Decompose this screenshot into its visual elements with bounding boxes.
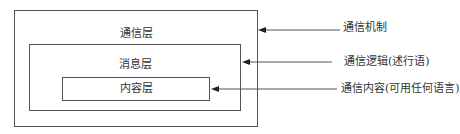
arrow-communication bbox=[258, 27, 340, 33]
annotation-communication-content: 通信内容(可用任何语言) bbox=[341, 83, 460, 95]
annotation-communication-mechanism: 通信机制 bbox=[343, 22, 387, 34]
arrow-message bbox=[242, 59, 332, 65]
annotation-communication-logic: 通信逻辑(述行语) bbox=[344, 56, 430, 68]
arrow-content bbox=[211, 86, 337, 92]
